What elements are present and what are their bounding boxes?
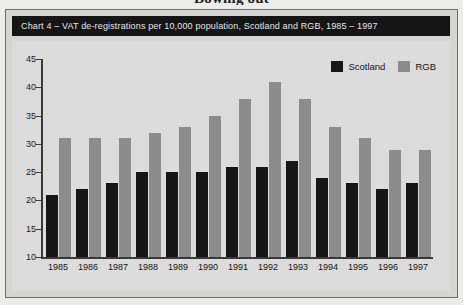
bar-rgb — [269, 82, 281, 257]
y-axis-tick: 30 — [12, 140, 36, 149]
bar-rgb — [359, 138, 371, 257]
bar-group — [283, 59, 313, 257]
x-axis-label: 1990 — [193, 261, 223, 273]
y-axis-tick-label: 40 — [16, 83, 36, 92]
bar-group — [43, 59, 73, 257]
y-axis-tick-label: 25 — [16, 168, 36, 177]
y-axis-tick-mark — [36, 116, 42, 117]
y-axis-tick: 25 — [12, 168, 36, 177]
x-axis-label: 1985 — [43, 261, 73, 273]
y-axis-tick: 45 — [12, 55, 36, 64]
x-axis-label: 1997 — [403, 261, 433, 273]
y-axis-tick-mark — [36, 59, 42, 60]
x-axis-label: 1995 — [343, 261, 373, 273]
bar-rgb — [389, 150, 401, 257]
bar-scotland — [376, 189, 388, 257]
x-axis-label: 1993 — [283, 261, 313, 273]
bar-group — [103, 59, 133, 257]
y-axis-tick: 10 — [12, 253, 36, 262]
legend-swatch-scotland — [331, 61, 343, 72]
bar-group — [133, 59, 163, 257]
bar-group — [193, 59, 223, 257]
y-axis-tick-mark — [36, 172, 42, 173]
legend-entry: Scotland — [331, 61, 385, 72]
bar-group — [403, 59, 433, 257]
bar-scotland — [196, 172, 208, 257]
bar-scotland — [346, 183, 358, 257]
bar-rgb — [149, 133, 161, 257]
bar-group — [313, 59, 343, 257]
bar-rgb — [419, 150, 431, 257]
x-axis-label: 1992 — [253, 261, 283, 273]
x-axis-label: 1989 — [163, 261, 193, 273]
legend-entry: RGB — [398, 61, 436, 72]
y-axis-tick-label: 20 — [16, 196, 36, 205]
page-root: Bowing out Chart 4 – VAT de-registration… — [0, 0, 463, 305]
bar-rgb — [89, 138, 101, 257]
y-axis-tick-label: 10 — [16, 253, 36, 262]
x-axis-label: 1994 — [313, 261, 343, 273]
bar-group — [373, 59, 403, 257]
y-axis-tick: 40 — [12, 83, 36, 92]
y-axis-tick: 15 — [12, 225, 36, 234]
x-axis-line — [41, 257, 433, 259]
bar-scotland — [106, 183, 118, 257]
bar-scotland — [76, 189, 88, 257]
x-axis-label: 1987 — [103, 261, 133, 273]
x-axis-labels: 1985198619871988198919901991199219931994… — [43, 261, 433, 275]
bar-scotland — [166, 172, 178, 257]
bar-rgb — [59, 138, 71, 257]
bars-layer — [43, 59, 433, 257]
bar-rgb — [239, 99, 251, 257]
chart-legend: ScotlandRGB — [331, 61, 436, 72]
bar-scotland — [256, 167, 268, 258]
y-axis-tick-label: 35 — [16, 112, 36, 121]
bar-scotland — [406, 183, 418, 257]
y-axis-tick-mark — [36, 200, 42, 201]
x-axis-label: 1991 — [223, 261, 253, 273]
legend-label: Scotland — [348, 61, 385, 72]
bar-scotland — [46, 195, 58, 257]
x-axis-label: 1986 — [73, 261, 103, 273]
chart-title-banner: Chart 4 – VAT de-registrations per 10,00… — [12, 16, 450, 36]
bar-rgb — [119, 138, 131, 257]
plot-surface: ScotlandRGB 1015202530354045 19851986198… — [12, 41, 450, 291]
bar-rgb — [299, 99, 311, 257]
legend-label: RGB — [415, 61, 436, 72]
x-axis-label: 1988 — [133, 261, 163, 273]
bar-scotland — [286, 161, 298, 257]
bar-rgb — [329, 127, 341, 257]
y-axis-tick-mark — [36, 87, 42, 88]
legend-swatch-rgb — [398, 61, 410, 72]
bar-group — [163, 59, 193, 257]
y-axis-tick-label: 30 — [16, 140, 36, 149]
y-axis-tick: 35 — [12, 112, 36, 121]
bar-group — [223, 59, 253, 257]
chart-frame: Chart 4 – VAT de-registrations per 10,00… — [5, 9, 458, 298]
bar-group — [343, 59, 373, 257]
bar-rgb — [209, 116, 221, 257]
x-axis-label: 1996 — [373, 261, 403, 273]
bar-scotland — [316, 178, 328, 257]
bar-rgb — [179, 127, 191, 257]
bar-scotland — [226, 167, 238, 258]
bar-group — [73, 59, 103, 257]
y-axis-tick: 20 — [12, 196, 36, 205]
y-axis-tick-label: 45 — [16, 55, 36, 64]
y-axis-tick-label: 15 — [16, 225, 36, 234]
y-axis-tick-mark — [36, 144, 42, 145]
page-headline: Bowing out — [0, 0, 463, 5]
bar-group — [253, 59, 283, 257]
y-axis-tick-mark — [36, 229, 42, 230]
y-axis-tick-mark — [36, 257, 42, 258]
bar-scotland — [136, 172, 148, 257]
